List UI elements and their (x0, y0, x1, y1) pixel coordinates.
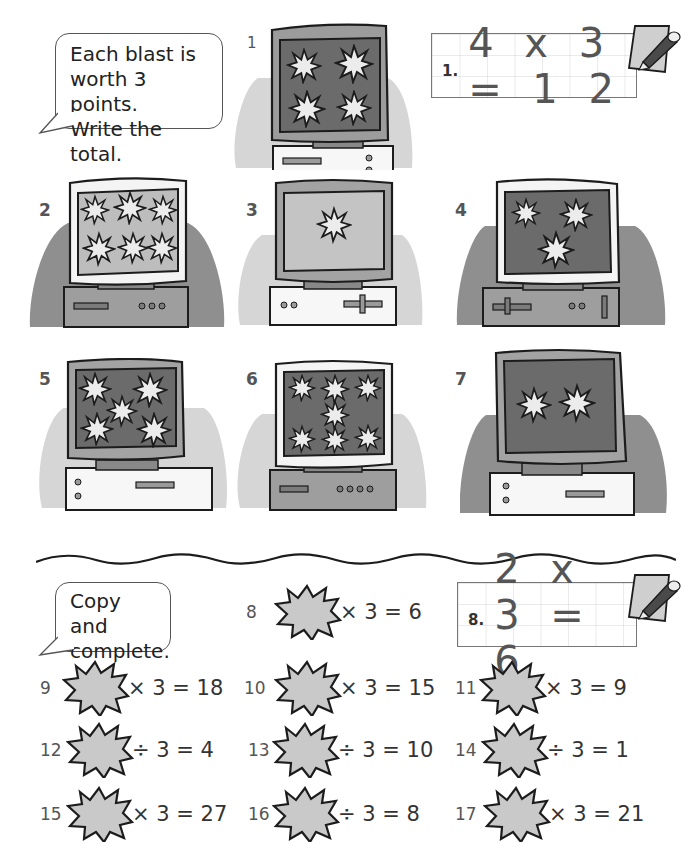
problem-number: 11 (455, 678, 479, 698)
problem-expression: × 3 = 27 (132, 802, 227, 826)
problem-number: 15 (40, 804, 66, 824)
problem-expression: ÷ 3 = 10 (338, 738, 433, 762)
problem-10: 10 × 3 = 15 (244, 660, 435, 716)
problem-number: 14 (455, 740, 481, 760)
problem-11: 11 × 3 = 9 (455, 660, 627, 716)
problem-expression: × 3 = 15 (340, 676, 435, 700)
problem-number: 9 (40, 678, 62, 698)
problem-expression: × 3 = 6 (340, 600, 422, 624)
starburst-icon (481, 722, 549, 778)
answer-number-2: 8. (468, 611, 484, 629)
computer-3-illustration (232, 175, 432, 335)
problem-number: 8 (246, 602, 274, 622)
problem-9: 9 × 3 = 18 (40, 660, 223, 716)
computer-7-illustration (460, 345, 670, 520)
pencil-paper-icon (625, 22, 682, 74)
problem-number: 10 (244, 678, 274, 698)
starburst-icon (479, 660, 547, 716)
problem-expression: × 3 = 9 (545, 676, 627, 700)
problem-14: 14 ÷ 3 = 1 (455, 722, 629, 778)
answer-expression: 4 x 3 = 1 2 (468, 20, 636, 112)
pencil-paper-icon (625, 571, 682, 623)
problem-number: 17 (455, 804, 483, 824)
problem-13: 13 ÷ 3 = 10 (248, 722, 433, 778)
problem-expression: ÷ 3 = 1 (547, 738, 629, 762)
instruction-text: Each blast is worth 3 points. Write the … (70, 42, 210, 167)
problem-expression: × 3 = 18 (128, 676, 223, 700)
problem-number: 13 (248, 740, 272, 760)
starburst-icon (272, 722, 340, 778)
problem-15: 15 × 3 = 27 (40, 786, 227, 842)
computer-1-illustration (228, 18, 428, 170)
speech-bubble-tail-icon (38, 112, 74, 136)
instruction-text-2: Copy and complete. (70, 589, 158, 664)
starburst-icon (272, 786, 340, 842)
starburst-icon (483, 786, 551, 842)
problem-expression: × 3 = 21 (549, 802, 644, 826)
instruction-bubble: Each blast is worth 3 points. Write the … (55, 33, 223, 129)
problem-8: 8 × 3 = 6 (246, 584, 422, 640)
computer-5-illustration (34, 358, 234, 518)
computer-2-illustration (28, 175, 228, 335)
problem-expression: ÷ 3 = 8 (338, 802, 420, 826)
speech-bubble-tail-icon (38, 636, 74, 658)
problem-17: 17 × 3 = 21 (455, 786, 644, 842)
answer-number: 1. (442, 62, 458, 80)
problem-16: 16 ÷ 3 = 8 (248, 786, 420, 842)
problem-number: 16 (248, 804, 272, 824)
starburst-icon (66, 722, 134, 778)
computer-6-illustration (232, 358, 432, 518)
problem-12: 12 ÷ 3 = 4 (40, 722, 214, 778)
computer-4-illustration (455, 170, 670, 335)
worked-example-answer-box-2: 8. 2 x 3 = 6 (457, 582, 637, 647)
problem-expression: ÷ 3 = 4 (132, 738, 214, 762)
problem-number: 12 (40, 740, 66, 760)
worked-example-answer-box: 1. 4 x 3 = 1 2 (431, 33, 637, 98)
starburst-icon (274, 584, 342, 640)
starburst-icon (274, 660, 342, 716)
starburst-icon (66, 786, 134, 842)
starburst-icon (62, 660, 130, 716)
